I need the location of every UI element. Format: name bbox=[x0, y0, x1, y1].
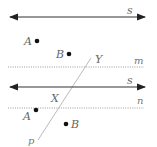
geometry-diagram: s A B m Y s X n A B p bbox=[0, 0, 157, 147]
point-a-top bbox=[35, 39, 40, 44]
label-a-top: A bbox=[23, 35, 32, 48]
label-x: X bbox=[50, 92, 60, 105]
line-p-transversal bbox=[38, 58, 91, 140]
label-n: n bbox=[137, 95, 143, 106]
label-a-bottom: A bbox=[22, 110, 31, 123]
point-b-top bbox=[67, 52, 72, 57]
label-y: Y bbox=[95, 53, 104, 66]
label-b-top: B bbox=[55, 48, 64, 61]
point-b-bottom bbox=[64, 122, 69, 127]
point-a-bottom bbox=[34, 108, 39, 113]
label-b-bottom: B bbox=[70, 118, 79, 131]
label-m: m bbox=[134, 55, 143, 66]
label-s-top: s bbox=[127, 4, 133, 17]
label-s-bottom: s bbox=[127, 74, 133, 87]
bottom-panel: s X n A B p bbox=[8, 74, 145, 146]
label-p: p bbox=[28, 135, 35, 146]
top-panel: s A B m Y bbox=[8, 4, 145, 67]
